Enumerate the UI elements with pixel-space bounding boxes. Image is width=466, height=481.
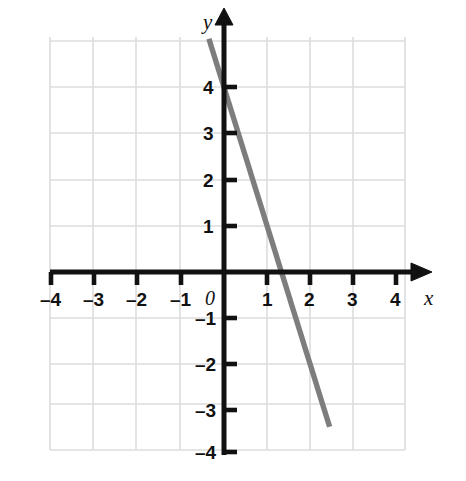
x-tick-label-1: 1 (262, 290, 273, 309)
y-tick-label--1: –1 (195, 309, 216, 328)
x-tick-label-2: 2 (304, 290, 315, 309)
x-tick-label--4: –4 (40, 290, 61, 309)
graph-canvas (0, 0, 466, 481)
y-tick-label-1: 1 (203, 217, 214, 236)
x-tick-label-3: 3 (347, 290, 358, 309)
origin-label: 0 (205, 288, 215, 308)
y-tick-label-2: 2 (203, 171, 214, 190)
x-axis (50, 263, 432, 285)
y-axis-arrow-icon (215, 8, 233, 25)
y-axis-label: y (203, 12, 212, 33)
y-tick-label-4: 4 (203, 78, 214, 97)
x-tick-label-4: 4 (390, 290, 401, 309)
coordinate-plane-graph: –4 –3 –2 –1 1 2 3 4 4 3 2 1 –1 –2 –3 –4 … (0, 0, 466, 481)
y-tick-label-3: 3 (203, 124, 214, 143)
plotted-line (209, 39, 330, 427)
y-tick-label--3: –3 (195, 401, 216, 420)
x-tick-label--1: –1 (170, 290, 191, 309)
x-tick-label--3: –3 (83, 290, 104, 309)
y-tick-label--4: –4 (195, 443, 216, 462)
y-tick-label--2: –2 (195, 355, 216, 374)
x-axis-arrow-icon (411, 263, 432, 281)
x-tick-label--2: –2 (126, 290, 147, 309)
x-axis-label: x (424, 288, 433, 309)
